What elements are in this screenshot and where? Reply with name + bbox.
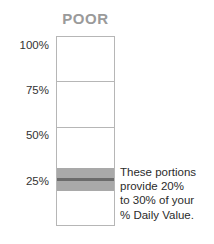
chart-plot-area [56,36,115,226]
y-axis-tick-label-25: 25% [10,175,56,187]
poor-daily-value-chart: POOR 100% 75% 50% 25% These portions pro… [0,0,214,244]
y-axis-tick-label-100: 100% [10,39,56,51]
gridline-50 [57,127,114,128]
highlight-band-marker-line [57,178,114,181]
annotation-line-2: provide 20% [120,179,214,193]
annotation-text-block: These portions provide 20% to 30% of you… [120,165,214,222]
annotation-line-3: to 30% of your [120,193,214,207]
chart-title: POOR [56,10,115,27]
annotation-line-4: % Daily Value. [120,208,214,222]
y-axis-tick-label-75: 75% [10,84,56,96]
highlight-band-20-to-30 [57,168,114,191]
annotation-line-1: These portions [120,165,214,179]
y-axis-tick-label-50: 50% [10,129,56,141]
gridline-75 [57,81,114,82]
